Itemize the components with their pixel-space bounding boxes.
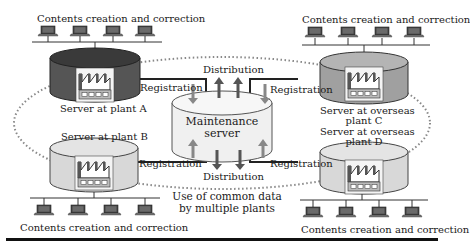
plant-d-server-label-line2: plant D — [320, 136, 408, 147]
maintenance-server-label-line2: server — [172, 128, 272, 139]
registration-a-label: Registration — [140, 82, 203, 93]
registration-c-label: Registration — [270, 84, 333, 95]
plant-c-network — [302, 27, 430, 55]
plant-d-clients-label: Contents creation and correction — [301, 224, 469, 235]
plant-c-server-label-line2: plant C — [320, 115, 408, 126]
plant-d-network — [300, 194, 428, 217]
plant-a-network — [32, 26, 162, 50]
plant-d-server-cylinder — [320, 142, 408, 194]
plant-b-server-cylinder — [50, 138, 138, 192]
caption-line1: Use of common data — [172, 191, 282, 202]
top-distribution-label: Distribution — [203, 64, 264, 75]
plant-b-network — [30, 192, 160, 215]
plant-a-server-cylinder — [50, 48, 140, 102]
bottom-distribution-label: Distribution — [203, 171, 264, 182]
maintenance-server-label-line1: Maintenance — [172, 116, 272, 127]
footer-rule — [6, 238, 438, 241]
plant-c-clients-label: Contents creation and correction — [302, 14, 470, 25]
caption-line2: by multiple plants — [172, 203, 282, 214]
plant-b-clients-label: Contents creation and correction — [20, 222, 188, 233]
registration-d-label: Registration — [270, 158, 333, 169]
plant-b-server-label: Server at plant B — [61, 131, 148, 142]
plant-a-clients-label: Contents creation and correction — [37, 13, 205, 24]
registration-b-label: Registration — [139, 158, 202, 169]
plant-a-server-label: Server at plant A — [60, 103, 147, 114]
plant-c-server-cylinder — [320, 52, 408, 104]
